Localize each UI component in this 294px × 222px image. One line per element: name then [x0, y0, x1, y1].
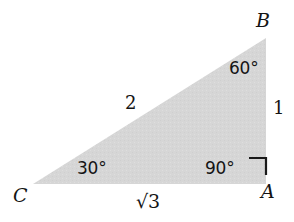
- triangle-svg: [0, 0, 294, 222]
- vertex-label-a: A: [261, 182, 275, 201]
- side-label-vertical: 1: [273, 99, 284, 117]
- side-label-base: √3: [136, 192, 160, 211]
- vertex-label-b: B: [256, 11, 270, 30]
- geometry-figure: B A C 60° 30° 90° 2 1 √3: [0, 0, 294, 222]
- angle-label-at-c: 30°: [77, 160, 107, 177]
- side-label-hypotenuse: 2: [125, 94, 136, 112]
- angle-label-at-a: 90°: [205, 160, 235, 177]
- angle-label-at-b: 60°: [229, 60, 259, 77]
- vertex-label-c: C: [13, 186, 28, 205]
